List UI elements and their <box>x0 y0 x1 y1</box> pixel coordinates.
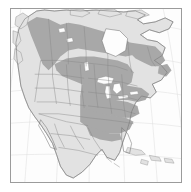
map-figure: Shaded area covers British Columbia, Alb… <box>0 0 191 192</box>
north-america-map[interactable] <box>11 9 181 182</box>
map-frame <box>10 8 182 183</box>
